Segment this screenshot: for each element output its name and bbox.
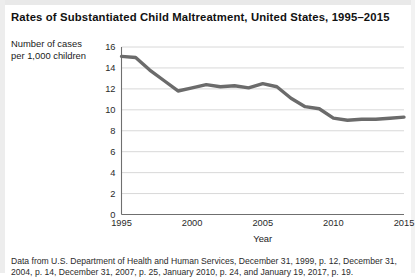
y-tick-label: 16 [105, 42, 115, 52]
y-tick-label: 10 [105, 105, 115, 115]
y-tick-label: 8 [110, 126, 115, 136]
source-note-line-2: 2004, p. 14, December 31, 2007, p. 25, J… [11, 267, 411, 277]
source-note: Data from U.S. Department of Health and … [11, 256, 411, 277]
x-tick-label: 1995 [111, 218, 132, 228]
x-tick-label: 2005 [252, 218, 273, 228]
x-axis-title: Year [253, 233, 272, 244]
x-tick-label: 2015 [394, 218, 415, 228]
y-tick-label: 12 [105, 84, 115, 94]
y-tick-label: 6 [110, 147, 115, 157]
y-tick-label: 14 [105, 63, 115, 73]
data-line-series [122, 56, 405, 120]
y-tick-label: 2 [110, 189, 115, 199]
x-tick-label: 2010 [323, 218, 344, 228]
source-note-line-1: Data from U.S. Department of Health and … [11, 256, 411, 267]
x-tick-label: 2000 [182, 218, 203, 228]
y-tick-label: 4 [110, 168, 115, 178]
